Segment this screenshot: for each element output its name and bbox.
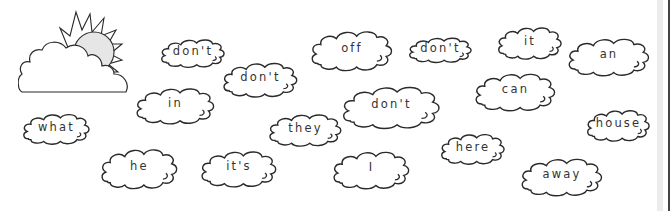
sun-behind-cloud-icon	[18, 8, 130, 94]
sight-word: I	[332, 143, 411, 191]
sight-word: house	[586, 103, 651, 143]
sight-word: it	[497, 20, 563, 61]
sight-word: here	[440, 127, 506, 166]
sight-word: it's	[200, 143, 278, 189]
sight-word: don't	[160, 33, 226, 69]
sight-word: don't	[341, 77, 442, 131]
word-cloud: don't	[408, 32, 473, 64]
sight-word: can	[474, 65, 557, 113]
word-cloud: what	[22, 107, 91, 146]
word-cloud: an	[567, 30, 651, 78]
word-cloud: I	[332, 143, 411, 191]
word-cloud: house	[586, 103, 651, 143]
word-cloud: off	[310, 22, 394, 73]
sight-word: what	[22, 107, 91, 146]
sight-word: off	[310, 22, 394, 73]
page-edge-border	[668, 0, 670, 211]
sight-word: don't	[408, 32, 473, 64]
sight-word: an	[567, 30, 651, 78]
word-cloud: in	[135, 80, 216, 126]
word-cloud: they	[268, 107, 343, 148]
word-cloud: he	[100, 140, 179, 191]
word-cloud: it	[497, 20, 563, 61]
sight-word: he	[100, 140, 179, 191]
page-edge-shadow	[657, 0, 663, 211]
word-cloud: don't	[222, 55, 299, 99]
word-cloud: away	[520, 150, 604, 198]
word-cloud: can	[474, 65, 557, 113]
word-cloud: it's	[200, 143, 278, 189]
sight-word: in	[135, 80, 216, 126]
sight-word: don't	[222, 55, 299, 99]
word-cloud: don't	[160, 33, 226, 69]
word-cloud: don't	[341, 77, 442, 131]
word-cloud: here	[440, 127, 506, 166]
sight-word: they	[268, 107, 343, 148]
sight-word: away	[520, 150, 604, 198]
